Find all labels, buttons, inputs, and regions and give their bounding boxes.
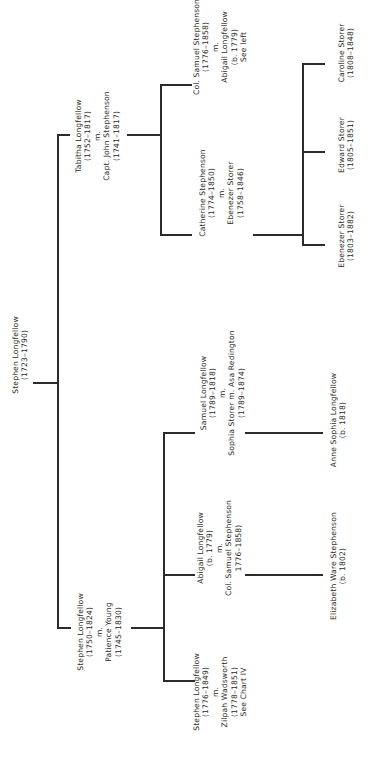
spouse-dates: (b. 1779) bbox=[229, 0, 238, 95]
person-dates: (1789–1818) bbox=[209, 330, 218, 455]
spouse-name: Sophia Storer m. Asa Redington bbox=[228, 330, 237, 455]
person-dates: (b. 1802) bbox=[338, 512, 347, 620]
person-name: Edward Storer bbox=[337, 117, 346, 173]
person-dates: (1750–1824) bbox=[86, 593, 95, 671]
person-dates: (1774–1850) bbox=[208, 149, 217, 237]
marriage-label: m. bbox=[211, 653, 220, 731]
marriage-label: m. bbox=[93, 91, 102, 181]
tabitha-connector bbox=[57, 134, 70, 136]
person-name: Caroline Storer bbox=[337, 23, 346, 82]
person-name: Stephen Longfellow bbox=[192, 653, 201, 731]
person-dates: (1805–1851) bbox=[346, 117, 355, 173]
ebenezer-jr-connector bbox=[302, 244, 325, 246]
gen2-trunk bbox=[57, 134, 59, 629]
person-dates: (b. 1818) bbox=[338, 373, 347, 467]
spouse-name: Ebenezer Storer bbox=[227, 149, 236, 237]
storer-family-connector bbox=[253, 234, 303, 236]
person-name: Stephen Longfellow bbox=[11, 316, 20, 394]
person-name: Stephen Longfellow bbox=[76, 593, 85, 671]
person-dates: (1723–1790) bbox=[20, 316, 29, 394]
spouse-dates: 1776–1858) bbox=[234, 500, 243, 596]
stephen1750-family-connector bbox=[131, 627, 164, 629]
cross-reference-note: See Chart IV bbox=[239, 653, 248, 731]
spouse-name: Abigail Longfellow bbox=[220, 0, 229, 95]
person-name: Col. Samuel Stephenson bbox=[192, 0, 201, 95]
elizabeth-connector bbox=[245, 574, 323, 576]
spouse-dates: (1778–1851) bbox=[229, 653, 238, 731]
spouse-dates: (1758–1846) bbox=[236, 149, 245, 237]
person-dates: (b. 1779) bbox=[206, 500, 215, 596]
samuel-longfellow-connector bbox=[163, 432, 195, 434]
storer-children-trunk bbox=[302, 63, 304, 245]
edward-connector bbox=[302, 151, 325, 153]
marriage-label: m. bbox=[95, 593, 104, 671]
person-name: Samuel Longfellow bbox=[199, 330, 208, 455]
tabitha-family-connector bbox=[127, 134, 161, 136]
spouse-dates: (1741–1817) bbox=[112, 91, 121, 181]
stephen1750-connector bbox=[57, 627, 71, 629]
person-name: Elizabeth Ware Stephenson bbox=[329, 512, 338, 620]
spouse-dates: (1745–1830) bbox=[114, 593, 123, 671]
caroline-connector bbox=[302, 63, 325, 65]
catherine-connector bbox=[160, 234, 192, 236]
marriage-label: m. bbox=[211, 0, 220, 95]
marriage-label: m. bbox=[218, 330, 227, 455]
person-name: Tabitha Longfellow bbox=[74, 91, 83, 181]
spouse-dates: (1789–1874) bbox=[237, 330, 246, 455]
marriage-label: m. bbox=[215, 500, 224, 596]
person-dates: (1776–1849) bbox=[201, 653, 210, 731]
stephen1750-children-trunk bbox=[163, 432, 165, 682]
person-name: Anne Sophia Longfellow bbox=[329, 373, 338, 467]
anne-sophia-connector bbox=[245, 432, 323, 434]
samuel-stephenson-connector bbox=[160, 84, 192, 86]
spouse-name: Patience Young bbox=[105, 593, 114, 671]
person-dates: (1803–1882) bbox=[346, 204, 355, 267]
spouse-name: Zilpah Wadsworth bbox=[220, 653, 229, 731]
person-dates: (1752–1817) bbox=[84, 91, 93, 181]
spouse-name: Capt. John Stephenson bbox=[103, 91, 112, 181]
root-connector bbox=[33, 382, 58, 384]
tabitha-children-trunk bbox=[160, 84, 162, 236]
person-name: Catherine Stephenson bbox=[198, 149, 207, 237]
person-dates: (1808–1848) bbox=[346, 23, 355, 82]
stephen1776-connector bbox=[163, 680, 195, 682]
person-dates: (1776–1858) bbox=[201, 0, 210, 95]
spouse-name: Col. Samuel Stephenson bbox=[225, 500, 234, 596]
person-name: Abigail Longfellow bbox=[196, 500, 205, 596]
marriage-label: m. bbox=[217, 149, 226, 237]
abigail-connector bbox=[163, 574, 195, 576]
person-name: Ebenezer Storer bbox=[337, 204, 346, 267]
cross-reference-note: See left bbox=[239, 0, 248, 95]
